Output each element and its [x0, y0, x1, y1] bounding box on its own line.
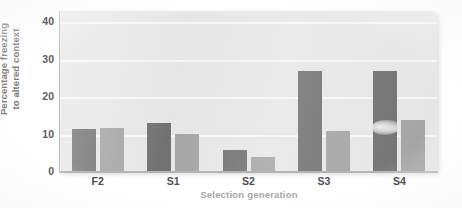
bar-S4-dark — [373, 71, 397, 172]
bar-S2-light — [251, 157, 275, 172]
bar-S3-dark — [298, 71, 322, 172]
gridline-30 — [60, 60, 437, 62]
bar-F2-light — [100, 128, 124, 172]
x-tick-label-S4: S4 — [361, 175, 437, 187]
plot-area — [60, 11, 437, 172]
y-tick-label-20: 20 — [20, 91, 54, 102]
y-tick-label-0: 0 — [20, 166, 54, 177]
x-tick-label-S1: S1 — [135, 175, 211, 187]
bar-F2-dark — [72, 129, 96, 172]
y-tick-label-30: 30 — [20, 54, 54, 65]
gridline-40 — [60, 22, 437, 24]
bar-S4-light — [401, 120, 425, 172]
y-axis-title-line-1: Percentage freezing — [0, 0, 10, 144]
x-tick-label-S2: S2 — [211, 175, 287, 187]
bar-S3-light — [326, 131, 350, 172]
x-tick-label-S3: S3 — [286, 175, 362, 187]
x-axis-baseline — [60, 171, 438, 173]
bar-S1-dark — [147, 123, 171, 172]
y-tick-label-40: 40 — [20, 16, 54, 27]
x-tick-label-F2: F2 — [60, 175, 136, 187]
y-axis-line — [59, 11, 60, 173]
bar-S1-light — [175, 134, 199, 172]
y-tick-label-10: 10 — [20, 129, 54, 140]
bar-S2-dark — [223, 150, 247, 172]
bar-chart-figure: Percentage freezing to altered context S… — [0, 0, 462, 208]
x-axis-title: Selection generation — [60, 189, 438, 200]
